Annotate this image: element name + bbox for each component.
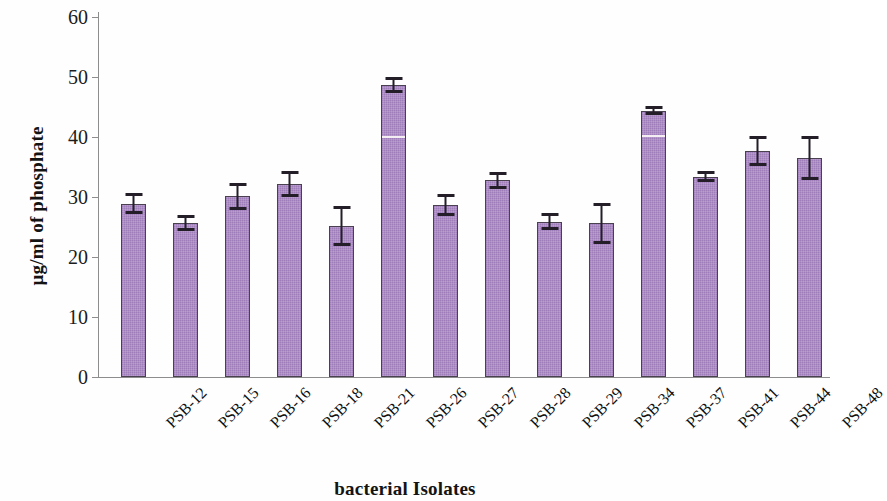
bar — [381, 85, 406, 377]
y-tick-mark — [92, 377, 98, 378]
error-bar — [809, 136, 810, 179]
bar — [797, 158, 822, 377]
error-bar-cap-lower — [385, 90, 402, 93]
error-bar — [653, 106, 654, 116]
error-bar — [445, 194, 446, 216]
error-bar-cap-upper — [281, 171, 298, 174]
error-bar-cap-lower — [749, 163, 766, 166]
error-bar-stem — [237, 183, 239, 211]
x-tick-label: PSB-37 — [683, 384, 731, 432]
error-bar — [497, 172, 498, 189]
bar — [693, 177, 718, 377]
x-tick-label: PSB-18 — [319, 384, 367, 432]
bar — [225, 196, 250, 377]
bar — [745, 151, 770, 377]
error-bar-cap-upper — [749, 136, 766, 139]
error-bar-cap-lower — [125, 211, 142, 214]
bar — [537, 222, 562, 377]
x-tick-label: PSB-12 — [163, 384, 211, 432]
x-tick-label: PSB-16 — [267, 384, 315, 432]
y-tick-label: 0 — [78, 366, 88, 389]
y-tick-mark — [92, 197, 98, 198]
bar-group — [370, 17, 422, 377]
error-bar-cap-upper — [333, 206, 350, 209]
bar — [589, 223, 614, 377]
error-bar — [133, 193, 134, 213]
error-bar-stem — [601, 203, 603, 244]
error-bar-stem — [341, 206, 343, 246]
y-tick-mark — [92, 137, 98, 138]
x-tick-label: PSB-44 — [787, 384, 835, 432]
error-bar — [601, 203, 602, 244]
error-bar — [757, 136, 758, 166]
x-tick-label: PSB-41 — [735, 384, 783, 432]
x-tick-label: PSB-48 — [839, 384, 887, 432]
error-bar-cap-lower — [437, 213, 454, 216]
error-bar-cap-lower — [697, 179, 714, 182]
error-bar-cap-lower — [541, 227, 558, 230]
error-bar-cap-lower — [801, 177, 818, 180]
bar — [121, 204, 146, 377]
y-axis-line — [98, 12, 99, 378]
error-bar-cap-upper — [177, 215, 194, 218]
scan-artifact-line — [382, 136, 405, 138]
x-tick-label: PSB-26 — [423, 384, 471, 432]
bar-group — [578, 17, 630, 377]
bar — [329, 226, 354, 377]
bar — [277, 184, 302, 377]
error-bar-cap-lower — [645, 112, 662, 115]
x-axis-title: bacterial Isolates — [0, 478, 810, 500]
y-tick-label: 20 — [68, 246, 88, 269]
error-bar — [393, 77, 394, 93]
bar-group — [734, 17, 786, 377]
bar-group — [318, 17, 370, 377]
bar-group — [786, 17, 838, 377]
x-axis-line — [98, 377, 830, 378]
bar — [433, 205, 458, 377]
error-bar-cap-upper — [229, 183, 246, 186]
error-bar-stem — [757, 136, 759, 166]
error-bar — [705, 171, 706, 182]
error-bar-cap-upper — [593, 203, 610, 206]
bar-group — [266, 17, 318, 377]
bar-group — [422, 17, 474, 377]
y-tick-mark — [92, 77, 98, 78]
y-tick-label: 50 — [68, 66, 88, 89]
error-bar — [185, 215, 186, 231]
y-tick-mark — [92, 317, 98, 318]
bar-group — [162, 17, 214, 377]
error-bar-stem — [809, 136, 811, 179]
error-bar — [237, 183, 238, 211]
x-tick-label: PSB-29 — [579, 384, 627, 432]
error-bar-cap-lower — [593, 241, 610, 244]
y-axis-title: µg/ml of phosphate — [26, 91, 48, 321]
bar-group — [214, 17, 266, 377]
error-bar — [341, 206, 342, 246]
x-tick-label: PSB-15 — [215, 384, 263, 432]
error-bar-cap-lower — [333, 243, 350, 246]
error-bar-cap-upper — [801, 136, 818, 139]
error-bar-cap-upper — [489, 172, 506, 175]
y-tick-label: 40 — [68, 126, 88, 149]
error-bar-cap-upper — [385, 77, 402, 80]
y-tick-label: 30 — [68, 186, 88, 209]
error-bar — [289, 171, 290, 197]
bar-group — [526, 17, 578, 377]
error-bar-cap-upper — [541, 213, 558, 216]
x-tick-label: PSB-34 — [631, 384, 679, 432]
error-bar-cap-upper — [645, 106, 662, 109]
x-tick-label: PSB-21 — [371, 384, 419, 432]
error-bar-cap-lower — [489, 186, 506, 189]
error-bar-cap-upper — [697, 171, 714, 174]
error-bar-cap-lower — [177, 228, 194, 231]
x-tick-label: PSB-27 — [475, 384, 523, 432]
error-bar — [549, 213, 550, 230]
error-bar-cap-lower — [229, 207, 246, 210]
error-bar-cap-upper — [125, 193, 142, 196]
y-tick-label: 60 — [68, 6, 88, 29]
error-bar-cap-upper — [437, 194, 454, 197]
bar — [485, 180, 510, 377]
plot-area: 0102030405060 — [98, 17, 830, 377]
error-bar-cap-lower — [281, 194, 298, 197]
